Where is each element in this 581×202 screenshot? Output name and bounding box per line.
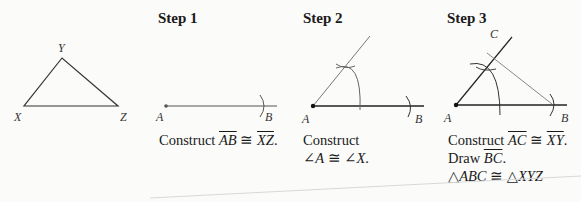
step1-caption: Construct AB ≅ XZ. <box>159 131 278 149</box>
segment-ac: AC <box>508 132 527 148</box>
step3-label-b: B <box>561 111 568 126</box>
step2-caption: Construct ∠A ≅ ∠X. <box>303 131 369 167</box>
step1-segment-ab <box>166 95 277 117</box>
segment-xz: XZ <box>257 132 274 148</box>
step3-triangle-construction <box>456 37 567 116</box>
segment-bc: BC <box>484 150 503 166</box>
segment-xy: XY <box>547 132 564 148</box>
step1-title: Step 1 <box>158 10 198 27</box>
step3-title: Step 3 <box>447 10 487 27</box>
step2-label-a: A <box>302 112 309 127</box>
vertex-label-y: Y <box>58 41 65 56</box>
segment-ab: AB <box>219 132 237 148</box>
step1-label-a: A <box>156 110 163 125</box>
step2-label-b: B <box>415 112 422 127</box>
step3-caption: Construct AC ≅ XY. Draw BC. △ABC ≅ △XYZ <box>448 131 567 185</box>
triangle-xyz <box>24 58 118 106</box>
vertex-label-z: Z <box>120 110 127 125</box>
step3-label-c: C <box>490 27 498 42</box>
step3-label-a: A <box>444 111 451 126</box>
step2-angle-construction <box>313 36 424 117</box>
vertex-label-x: X <box>14 110 21 125</box>
step1-label-b: B <box>265 110 272 125</box>
step2-title: Step 2 <box>303 10 343 27</box>
